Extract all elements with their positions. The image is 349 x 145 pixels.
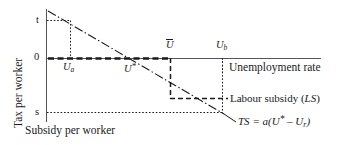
subsidy-axis-title: Subsidy per worker — [25, 125, 115, 137]
point-label-ua: Ua — [63, 62, 74, 73]
tax-subsidy-diagram: Tax per worker t 0 s Ua U* U Ub Unemploy… — [0, 0, 349, 145]
ts-equation-leader — [224, 114, 236, 122]
point-label-ub-subscript: b — [224, 43, 228, 52]
ts-equation-close-paren: ) — [306, 115, 310, 127]
point-label-ubar-text: U — [166, 40, 174, 51]
point-label-ustar-superscript: * — [132, 61, 136, 71]
y-axis-title: Tax per worker — [13, 58, 25, 128]
ts-equation-ustar: U — [272, 115, 280, 127]
ts-equation-equals: = — [250, 115, 263, 127]
y-tick-label-s: s — [35, 107, 39, 118]
point-label-ustar-text: U — [124, 63, 132, 74]
y-tick-label-zero: 0 — [34, 52, 39, 63]
x-axis-title: Unemployment rate — [229, 62, 321, 74]
point-label-ua-subscript: a — [71, 65, 75, 74]
point-label-ub: Ub — [216, 40, 227, 51]
labour-subsidy-close-paren: ) — [316, 92, 320, 104]
ts-equation-annotation: TS = a(U* – Ur) — [238, 115, 310, 129]
ts-equation-fn: a( — [263, 115, 272, 127]
point-label-ub-text: U — [216, 39, 224, 50]
labour-subsidy-abbrev: LS — [305, 92, 317, 104]
point-label-ua-text: U — [63, 61, 71, 72]
point-label-ubar: U — [166, 40, 174, 51]
labour-subsidy-annotation: Labour subsidy (LS) — [230, 93, 320, 104]
ts-equation-lead: TS — [238, 115, 250, 127]
point-label-ustar: U* — [124, 62, 136, 75]
y-tick-label-t: t — [36, 15, 39, 26]
labour-subsidy-text: Labour subsidy ( — [230, 92, 305, 104]
ts-equation-minus: – — [284, 115, 295, 127]
